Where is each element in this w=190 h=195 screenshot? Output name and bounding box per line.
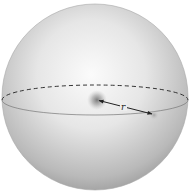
radius-label: r xyxy=(121,102,126,112)
surface-point-glow xyxy=(149,110,159,120)
center-point-glow xyxy=(87,90,107,110)
sphere-diagram: r xyxy=(0,0,190,195)
